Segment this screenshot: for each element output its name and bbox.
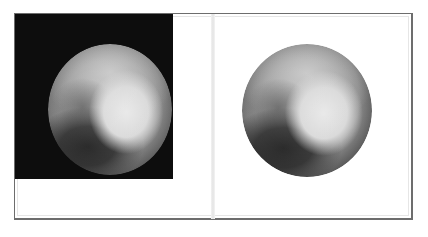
planet-image-original [48,44,172,175]
planet-image-cutout [242,44,372,177]
planet-shading [48,44,172,175]
planet-shading [242,44,372,177]
right-panel-label: Background removed [215,14,216,15]
